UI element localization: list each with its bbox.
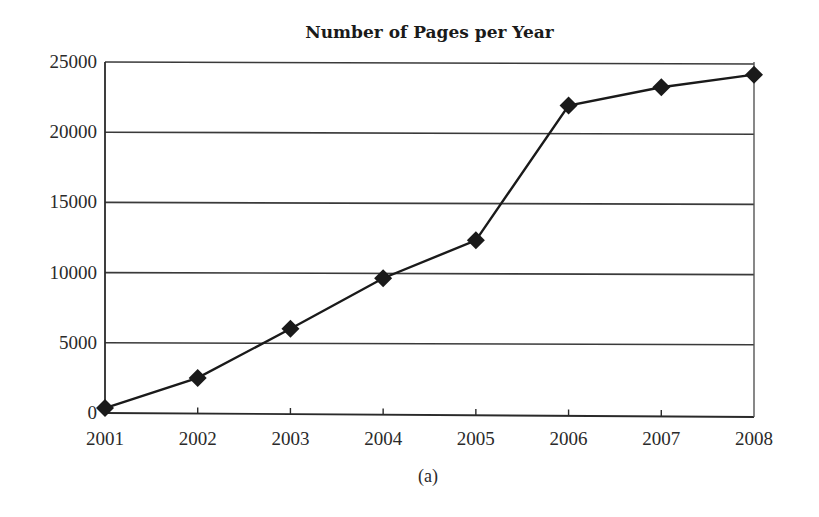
x-tick-label: 2005 bbox=[457, 428, 495, 449]
x-tick-label: 2008 bbox=[735, 428, 773, 449]
figure-caption: (a) bbox=[418, 466, 438, 487]
diamond-marker-icon bbox=[652, 78, 670, 96]
diamond-marker-icon bbox=[560, 97, 578, 115]
gridline bbox=[105, 132, 754, 134]
x-tick-label: 2004 bbox=[364, 428, 403, 449]
y-tick-label: 15000 bbox=[50, 191, 98, 212]
axes bbox=[105, 62, 754, 417]
gridline bbox=[105, 202, 754, 204]
x-tick-label: 2001 bbox=[86, 428, 124, 449]
x-tick-label: 2007 bbox=[642, 428, 680, 449]
gridline bbox=[105, 62, 754, 64]
y-tick-label: 5000 bbox=[59, 332, 97, 353]
data-series bbox=[96, 66, 763, 417]
series-line bbox=[105, 75, 754, 408]
x-tick-label: 2006 bbox=[550, 428, 588, 449]
x-tick-label: 2002 bbox=[179, 428, 217, 449]
x-tick-label: 2003 bbox=[271, 428, 309, 449]
y-tick-label: 25000 bbox=[50, 51, 98, 72]
diamond-marker-icon bbox=[374, 269, 392, 287]
gridline bbox=[105, 273, 754, 275]
y-tick-label: 10000 bbox=[50, 262, 98, 283]
x-axis bbox=[105, 413, 754, 417]
diamond-marker-icon bbox=[96, 399, 114, 417]
y-tick-label: 0 bbox=[88, 402, 98, 423]
line-chart: 0500010000150002000025000 20012002200320… bbox=[0, 0, 819, 517]
diamond-marker-icon bbox=[281, 320, 299, 338]
diamond-marker-icon bbox=[467, 231, 485, 249]
gridlines bbox=[105, 62, 754, 345]
diamond-marker-icon bbox=[745, 66, 763, 84]
gridline bbox=[105, 343, 754, 345]
diamond-marker-icon bbox=[189, 369, 207, 387]
y-tick-label: 20000 bbox=[50, 121, 98, 142]
y-axis-ticks: 0500010000150002000025000 bbox=[50, 51, 98, 423]
